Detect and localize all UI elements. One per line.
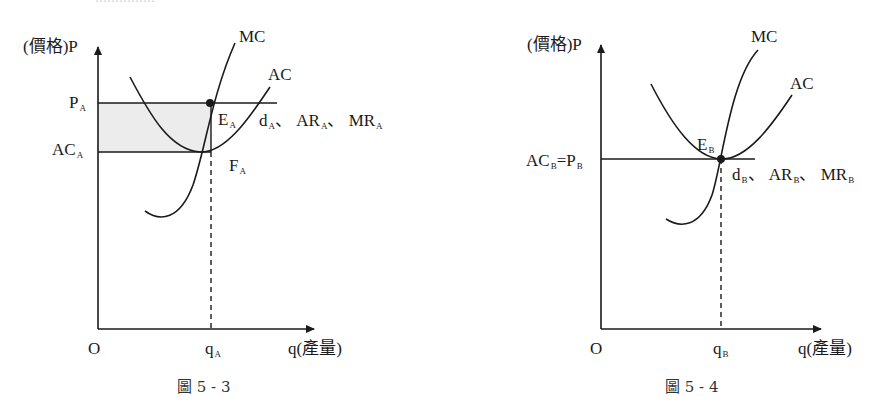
caption-figure-5-4: 圖 5 - 4 bbox=[665, 375, 718, 396]
figure-stage: …………… bbox=[0, 0, 883, 418]
origin-label: O bbox=[590, 340, 602, 357]
point-EA bbox=[206, 99, 214, 107]
profit-shaded-area bbox=[98, 103, 211, 152]
pa-label: PA bbox=[69, 94, 86, 113]
point-EB bbox=[717, 155, 725, 163]
ea-label: EA bbox=[218, 111, 236, 130]
y-axis-label: (價格)P bbox=[23, 38, 78, 55]
x-axis-label: q(產量) bbox=[798, 340, 852, 357]
fa-label: FA bbox=[229, 157, 246, 176]
acb-pb-label: ACB=PB bbox=[526, 152, 583, 171]
demand-label-B: dB、 ARB、 MRB bbox=[732, 166, 854, 185]
mc-label: MC bbox=[751, 28, 777, 45]
ac-curve bbox=[651, 84, 792, 159]
ac-label: AC bbox=[268, 66, 292, 83]
qb-label: qB bbox=[713, 340, 729, 359]
eb-label: EB bbox=[697, 136, 714, 155]
caption-figure-5-3: 圖 5 - 3 bbox=[177, 375, 230, 396]
aca-label: ACA bbox=[52, 141, 83, 160]
origin-label: O bbox=[88, 340, 100, 357]
mc-label: MC bbox=[239, 28, 265, 45]
figure-5-4 bbox=[601, 45, 821, 329]
qa-label: qA bbox=[205, 340, 221, 359]
figure-5-3 bbox=[98, 43, 314, 329]
x-axis-label: q(產量) bbox=[288, 340, 342, 357]
diagrams-svg bbox=[0, 0, 883, 418]
ac-label: AC bbox=[790, 75, 814, 92]
demand-label-A: dA、 ARA、 MRA bbox=[259, 112, 383, 131]
y-axis-label: (價格)P bbox=[527, 36, 582, 53]
